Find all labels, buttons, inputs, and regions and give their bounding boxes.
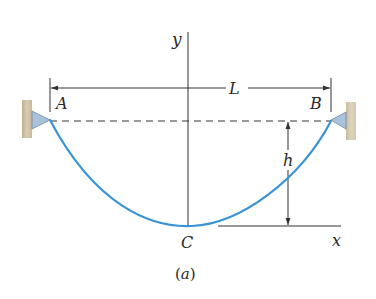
point-b-label: B — [309, 94, 322, 113]
left-support — [22, 100, 50, 138]
left-pin-bracket-icon — [32, 111, 50, 129]
sag-label: h — [283, 151, 293, 170]
catenary-diagram: y L A B h C x (a) — [0, 0, 376, 299]
point-a-label: A — [54, 94, 68, 113]
cable-curve — [50, 120, 331, 226]
right-support — [331, 102, 356, 140]
point-c-label: C — [181, 233, 193, 252]
right-wall — [346, 102, 356, 140]
figure-caption-letter: a — [181, 265, 190, 283]
span-dimension — [50, 78, 331, 112]
figure-caption: (a) — [175, 265, 196, 283]
left-wall — [22, 100, 32, 138]
right-pin-bracket-icon — [331, 112, 346, 129]
span-label: L — [228, 79, 240, 98]
x-axis-label: x — [332, 231, 341, 250]
y-axis-label: y — [171, 29, 182, 49]
